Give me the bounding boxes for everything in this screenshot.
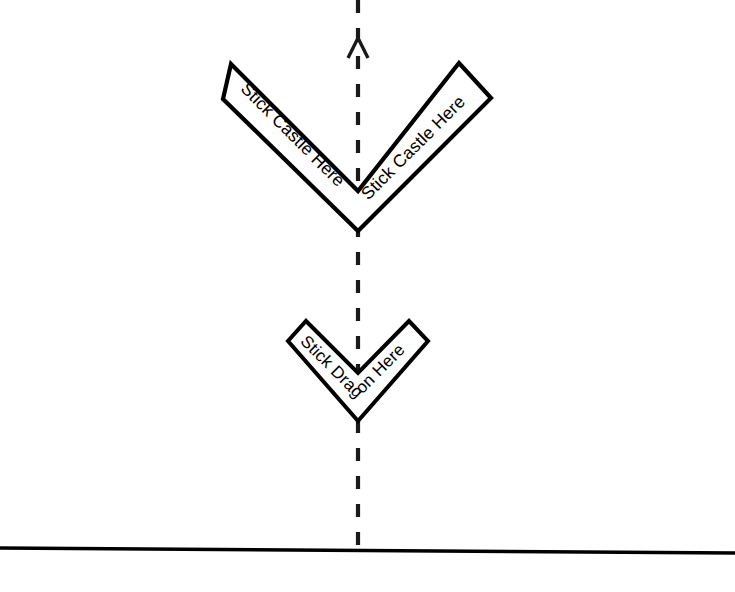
up-arrow-icon	[348, 38, 368, 58]
diagram-canvas: Stick Castle Here Stick Castle Here Stic…	[0, 0, 735, 592]
castle-left-arm-label: Stick Castle Here	[237, 78, 349, 190]
placement-diagram: Stick Castle Here Stick Castle Here Stic…	[0, 0, 735, 592]
castle-right-arm-label: Stick Castle Here	[357, 91, 469, 203]
ground-baseline	[0, 548, 735, 553]
